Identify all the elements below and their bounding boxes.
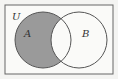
- universe-label: U: [12, 11, 21, 22]
- set-a-label: A: [23, 28, 31, 39]
- set-b-label: B: [81, 28, 89, 39]
- venn-diagram: U A B: [0, 0, 118, 79]
